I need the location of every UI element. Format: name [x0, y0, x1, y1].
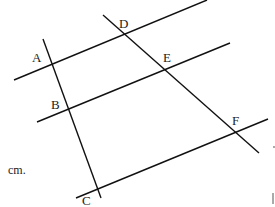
parallel-line-CF: [76, 119, 268, 198]
point-label-c: C: [82, 193, 91, 207]
unit-text: cm.: [8, 163, 26, 177]
geometry-diagram: ABCDEF cm.: [0, 0, 275, 207]
parallel-line-BE: [37, 43, 230, 122]
point-label-d: D: [119, 16, 128, 31]
transversal-DEF: [103, 15, 259, 153]
point-label-e: E: [163, 50, 171, 65]
point-label-a: A: [32, 50, 42, 65]
point-label-b: B: [51, 97, 60, 112]
point-label-f: F: [232, 113, 239, 128]
transversal-ABC: [43, 39, 101, 198]
